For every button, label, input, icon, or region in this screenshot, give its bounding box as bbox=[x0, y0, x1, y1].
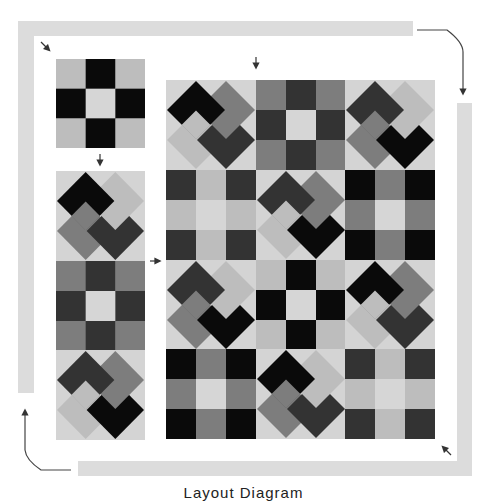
single-block-nine-patch bbox=[56, 59, 145, 148]
grid-block-pinwheel bbox=[256, 170, 346, 260]
grid-block-pinwheel bbox=[256, 349, 346, 439]
left-column-block-pinwheel bbox=[56, 350, 145, 440]
left-column-block-nine-patch bbox=[56, 261, 145, 351]
grid-block-nine-patch bbox=[345, 349, 435, 439]
grid-block-nine-patch bbox=[166, 349, 256, 439]
bottom-border-strip bbox=[78, 461, 472, 476]
grid-block-pinwheel bbox=[166, 260, 256, 350]
grid-block-nine-patch bbox=[256, 260, 346, 350]
left-column-block-pinwheel bbox=[56, 171, 145, 261]
diagram-caption: Layout Diagram bbox=[0, 484, 487, 501]
grid-block-nine-patch bbox=[345, 170, 435, 260]
top-border-strip bbox=[18, 21, 413, 36]
arrow-bottom-right-diagonal-icon bbox=[444, 448, 451, 455]
arrow-top-left-diagonal-icon bbox=[41, 42, 48, 49]
grid-block-pinwheel bbox=[345, 80, 435, 170]
grid-block-nine-patch bbox=[166, 170, 256, 260]
left-border-strip bbox=[18, 21, 34, 393]
right-border-strip bbox=[457, 103, 472, 476]
grid-block-pinwheel bbox=[166, 80, 256, 170]
grid-block-pinwheel bbox=[345, 260, 435, 350]
grid-block-nine-patch bbox=[256, 80, 346, 170]
